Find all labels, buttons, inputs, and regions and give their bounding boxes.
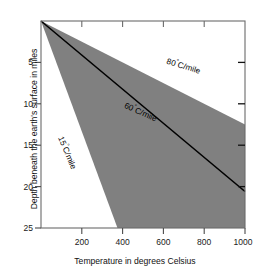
y-tick-label-25: 25: [14, 224, 33, 233]
x-tick-label-600: 600: [156, 238, 170, 247]
x-tick-label-400: 400: [116, 238, 130, 247]
y-axis-title: Depth beneath the earth's surface in mil…: [29, 34, 39, 224]
x-tick-label-800: 800: [197, 238, 211, 247]
x-axis-title: Temperature in degrees Celsius: [0, 256, 270, 266]
x-axis-ticks: [82, 228, 245, 234]
chart-plot-area: [0, 0, 270, 271]
x-tick-label-1000: 1000: [234, 238, 253, 247]
x-tick-label-200: 200: [75, 238, 89, 247]
chart-figure: 5 10 15 20 25 200 400 600 800 1000 80°C/…: [0, 0, 270, 271]
